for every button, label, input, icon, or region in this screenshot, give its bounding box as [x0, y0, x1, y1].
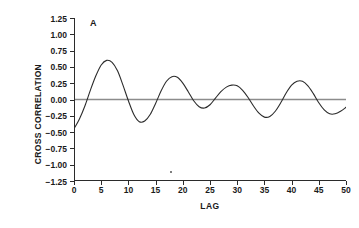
x-axis-title: LAG	[74, 202, 346, 211]
y-tick-mark: −0.50	[70, 132, 74, 133]
x-tick-label: 0	[72, 186, 77, 195]
x-tick-label: 15	[151, 186, 160, 195]
x-tick-label: 35	[260, 186, 269, 195]
y-tick-mark: −0.75	[70, 148, 74, 149]
y-tick-label: 1.25	[50, 14, 67, 23]
y-tick-label: 0.50	[50, 63, 67, 72]
x-tick-label: 50	[341, 186, 350, 195]
y-tick-label: −1.25	[45, 177, 67, 186]
data-line	[74, 60, 346, 129]
y-tick-mark: −1.00	[70, 165, 74, 166]
y-tick-label: 0.25	[50, 79, 67, 88]
x-tick-label: 20	[178, 186, 187, 195]
panel-label: A	[90, 19, 97, 28]
x-tick-label: 5	[99, 186, 104, 195]
y-tick-label: −0.50	[45, 128, 67, 137]
y-tick-mark: 0.75	[70, 51, 74, 52]
y-tick-label: 1.00	[50, 31, 67, 40]
x-tick-label: 45	[314, 186, 323, 195]
x-tick-label: 40	[287, 186, 296, 195]
y-tick-mark: 1.25	[70, 18, 74, 19]
y-tick-mark: −0.25	[70, 116, 74, 117]
plot-area: A −1.25−1.00−0.75−0.50−0.250.000.250.500…	[74, 18, 346, 181]
y-tick-label: −0.25	[45, 112, 67, 121]
y-tick-label: 0.75	[50, 47, 67, 56]
y-tick-label: −0.75	[45, 145, 67, 154]
y-tick-mark: 0.25	[70, 83, 74, 84]
y-axis-spine	[74, 18, 75, 181]
y-tick-label: 0.00	[50, 96, 67, 105]
y-tick-mark: 0.00	[70, 100, 74, 101]
y-tick-mark: 1.00	[70, 34, 74, 35]
x-tick-label: 30	[232, 186, 241, 195]
x-tick-label: 25	[205, 186, 214, 195]
x-tick-label: 10	[124, 186, 133, 195]
y-tick-mark: 0.50	[70, 67, 74, 68]
cross-correlation-figure: CROSS CORRELATION A −1.25−1.00−0.75−0.50…	[0, 0, 359, 228]
y-tick-label: −1.00	[45, 161, 67, 170]
cross-correlation-curve	[74, 18, 346, 181]
axis-ink-speck	[170, 171, 172, 173]
